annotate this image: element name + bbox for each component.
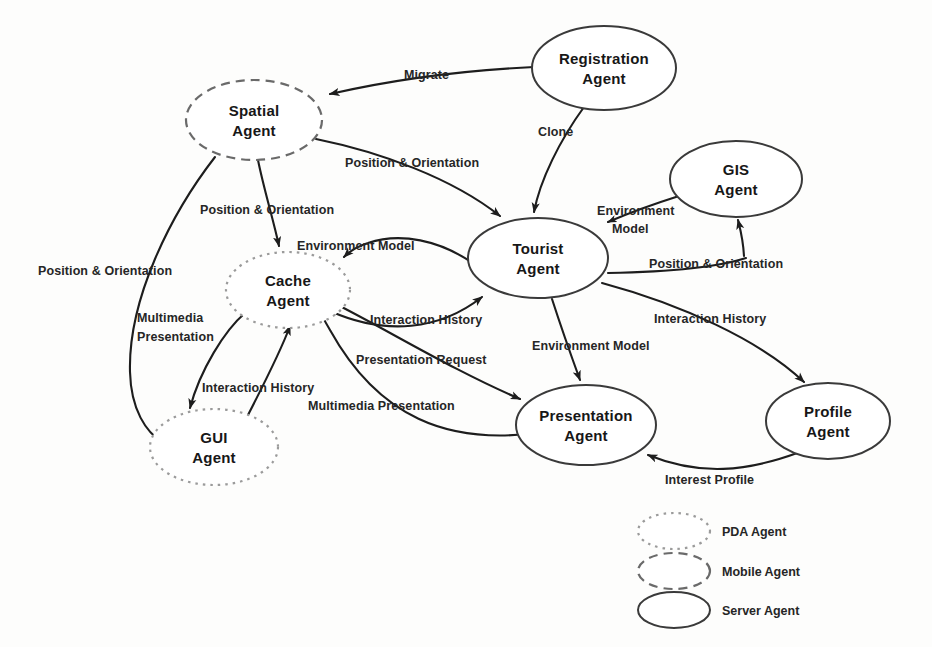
gui-agent-label-2: Agent: [192, 449, 236, 466]
edge-label-interaction-history-tourist-profile: Interaction History: [654, 312, 766, 326]
edge-clone-path: [534, 107, 584, 212]
spatial-agent-label-2: Agent: [232, 122, 276, 139]
legend-mobile-agent-ellipse: [638, 553, 710, 589]
edge-label-environment-gis-1: Environment: [597, 204, 675, 218]
registration-agent-label-1: Registration: [559, 50, 649, 67]
edge-label-multimedia-cache-gui-1: Multimedia: [137, 311, 204, 325]
legend-item-pda-agent: PDA Agent: [638, 513, 787, 549]
presentation-agent-label-1: Presentation: [539, 407, 632, 424]
spatial-agent-ellipse[interactable]: [186, 80, 322, 160]
edge-spatial-gui-path: [130, 157, 215, 443]
presentation-agent-ellipse[interactable]: [516, 385, 656, 465]
node-tourist-agent[interactable]: Tourist Agent: [468, 218, 608, 298]
edge-label-interaction-history-cache-tourist: Interaction History: [370, 313, 482, 327]
edge-label-multimedia-presentation-pres-cache: Multimedia Presentation: [308, 399, 455, 413]
edge-label-environment-gis-2: Model: [612, 222, 649, 236]
edge-label-environment-model-tourist-cache: Environment Model: [297, 239, 415, 253]
node-registration-agent[interactable]: Registration Agent: [532, 26, 676, 110]
cache-agent-label-2: Agent: [266, 292, 310, 309]
edge-label-position-orientation-spatial-gui: Position & Orientation: [38, 264, 172, 278]
edge-tourist-profile-path: [602, 283, 804, 382]
node-profile-agent[interactable]: Profile Agent: [766, 383, 890, 459]
edge-label-layer: Migrate Clone Position & Orientation Pos…: [38, 68, 783, 487]
edge-label-environment-model-tourist-pres: Environment Model: [532, 339, 650, 353]
node-gis-agent[interactable]: GIS Agent: [670, 141, 802, 217]
tourist-agent-ellipse[interactable]: [468, 218, 608, 298]
node-layer: Spatial Agent Registration Agent GIS Age…: [150, 26, 890, 485]
agent-diagram-canvas: Spatial Agent Registration Agent GIS Age…: [0, 0, 932, 647]
edge-gui-cache-path: [248, 326, 290, 415]
edge-label-interest-profile: Interest Profile: [665, 473, 754, 487]
cache-agent-label-1: Cache: [265, 272, 311, 289]
gui-agent-label-1: GUI: [200, 429, 227, 446]
legend-mobile-agent-label: Mobile Agent: [722, 565, 801, 579]
edge-label-clone: Clone: [538, 125, 573, 139]
profile-agent-label-2: Agent: [806, 423, 850, 440]
spatial-agent-label-1: Spatial: [229, 102, 280, 119]
legend-server-agent-label: Server Agent: [722, 604, 800, 618]
edge-spatial-tourist-path: [316, 139, 500, 216]
profile-agent-label-1: Profile: [804, 403, 852, 420]
legend-pda-agent-label: PDA Agent: [722, 525, 787, 539]
diagram-page: Spatial Agent Registration Agent GIS Age…: [0, 0, 932, 647]
edge-label-position-orientation-spatial-cache: Position & Orientation: [200, 203, 334, 217]
tourist-agent-label-2: Agent: [516, 260, 560, 277]
node-gui-agent[interactable]: GUI Agent: [150, 409, 278, 485]
registration-agent-ellipse[interactable]: [532, 26, 676, 110]
edge-label-position-orientation-spatial-tourist: Position & Orientation: [345, 156, 479, 170]
node-spatial-agent[interactable]: Spatial Agent: [186, 80, 322, 160]
gis-agent-label-2: Agent: [714, 181, 758, 198]
edge-label-interaction-history-gui-cache: Interaction History: [202, 381, 314, 395]
edge-tourist-gis-path: [738, 220, 744, 256]
profile-agent-ellipse[interactable]: [766, 383, 890, 459]
registration-agent-label-2: Agent: [582, 70, 626, 87]
node-presentation-agent[interactable]: Presentation Agent: [516, 385, 656, 465]
presentation-agent-label-2: Agent: [564, 427, 608, 444]
edge-label-migrate: Migrate: [404, 68, 449, 82]
legend-server-agent-ellipse: [638, 592, 710, 628]
legend-item-server-agent: Server Agent: [638, 592, 800, 628]
edge-label-position-orientation-tourist-gis: Position & Orientation: [649, 257, 783, 271]
legend: PDA Agent Mobile Agent Server Agent: [638, 513, 801, 628]
edge-profile-pres-path: [648, 452, 800, 469]
legend-item-mobile-agent: Mobile Agent: [638, 553, 801, 589]
gis-agent-ellipse[interactable]: [670, 141, 802, 217]
cache-agent-ellipse[interactable]: [226, 252, 350, 328]
tourist-agent-label-1: Tourist: [512, 240, 563, 257]
node-cache-agent[interactable]: Cache Agent: [226, 252, 350, 328]
edge-label-multimedia-cache-gui-2: Presentation: [137, 330, 214, 344]
legend-pda-agent-ellipse: [638, 513, 710, 549]
gis-agent-label-1: GIS: [723, 161, 749, 178]
edge-label-presentation-request: Presentation Request: [356, 353, 487, 367]
gui-agent-ellipse[interactable]: [150, 409, 278, 485]
